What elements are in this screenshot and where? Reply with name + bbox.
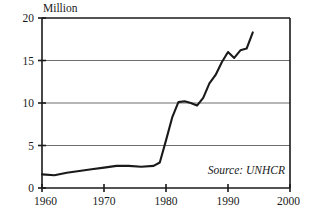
- y-axis-unit-label: Million: [43, 2, 78, 14]
- x-tick-label: 2000: [277, 195, 300, 207]
- x-tick-label: 1980: [155, 195, 178, 207]
- source-annotation: Source: UNHCR: [208, 164, 285, 176]
- y-tick-label: 10: [23, 97, 35, 109]
- y-tick-label: 0: [28, 182, 34, 194]
- x-tick-label: 1970: [93, 195, 116, 207]
- line-chart: 05101520 19601970198019902000 Million So…: [0, 0, 320, 217]
- y-tick-label: 15: [23, 55, 35, 67]
- y-tick-label: 5: [28, 140, 34, 152]
- y-tick-label: 20: [23, 12, 35, 24]
- x-tick-label: 1960: [34, 195, 57, 207]
- x-tick-label: 1990: [217, 195, 240, 207]
- chart-container: 05101520 19601970198019902000 Million So…: [0, 0, 320, 217]
